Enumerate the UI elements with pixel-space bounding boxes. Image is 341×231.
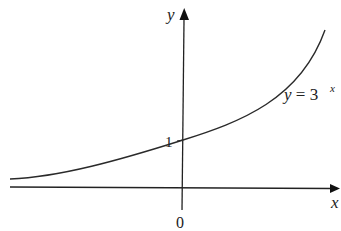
y-axis: [182, 20, 184, 210]
curve-label: y = 3 x: [282, 82, 335, 104]
exponential-graph: y x 0 1 y = 3 x: [0, 0, 341, 231]
x-axis-arrow-icon: [330, 184, 340, 193]
y-axis-label: y: [165, 5, 175, 24]
x-axis: [10, 187, 332, 189]
exponential-curve: [10, 30, 325, 179]
curve-label-base: y = 3: [282, 85, 318, 104]
curve-label-exponent: x: [329, 82, 335, 94]
intercept-label: 1: [165, 134, 173, 150]
y-axis-arrow-icon: [180, 8, 190, 20]
x-axis-label: x: [330, 193, 339, 212]
origin-label: 0: [176, 214, 184, 231]
